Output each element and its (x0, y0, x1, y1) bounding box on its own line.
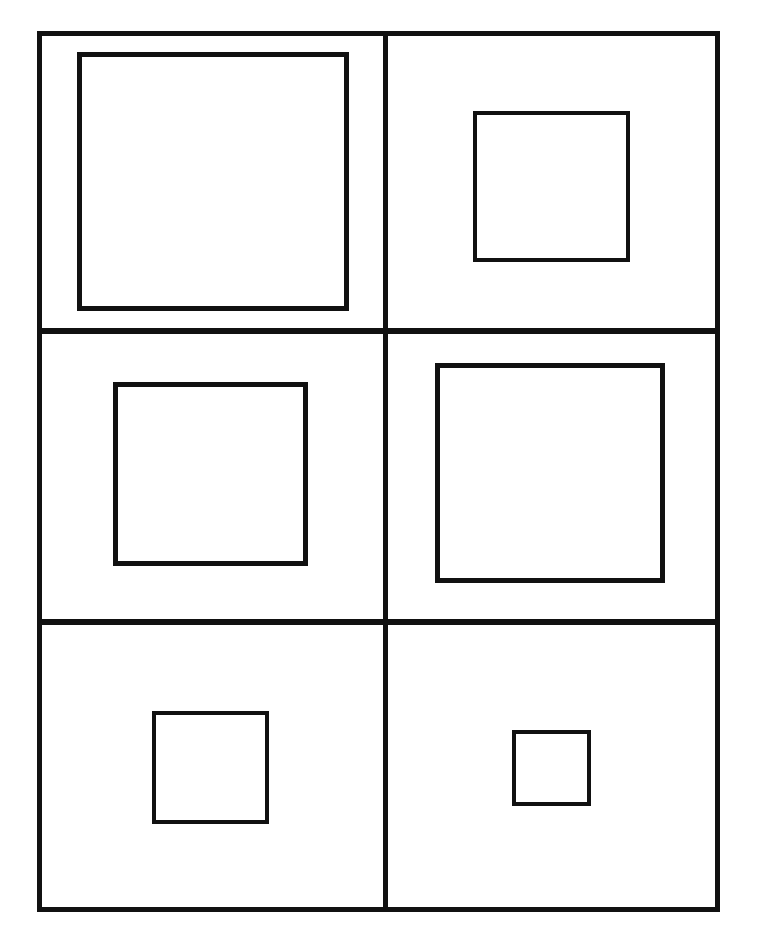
square-top-right (473, 111, 630, 262)
square-bottom-right (512, 730, 591, 806)
figure-canvas (0, 0, 761, 948)
square-bottom-left (152, 711, 269, 824)
square-top-left (77, 52, 349, 311)
square-middle-right (435, 363, 665, 583)
square-middle-left (113, 382, 308, 566)
